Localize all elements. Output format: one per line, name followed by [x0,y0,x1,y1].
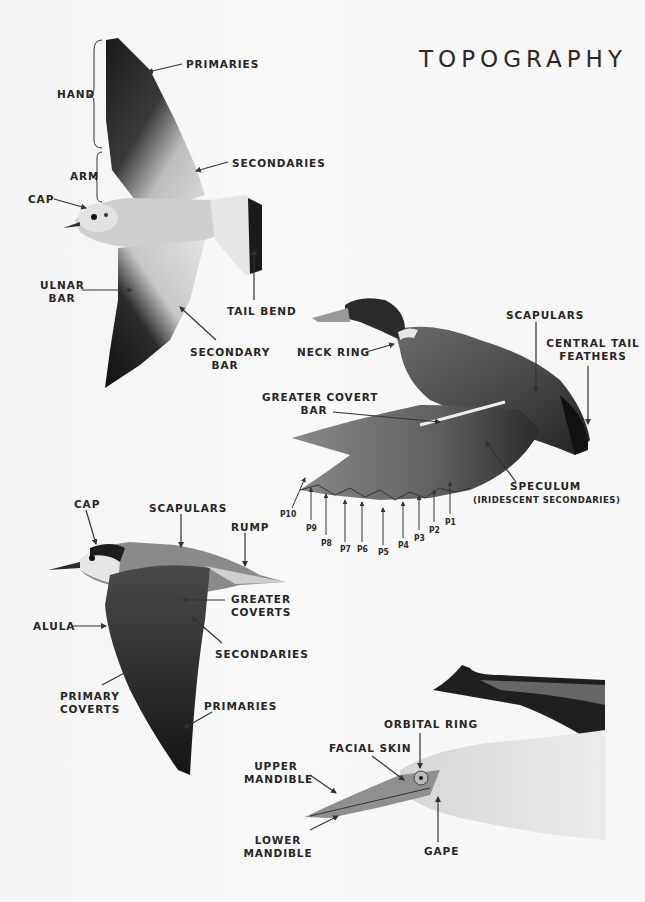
label-primary-coverts-line2: COVERTS [60,703,116,716]
label-lower-mandible-line1: LOWER [242,834,314,847]
label-p4: P4 [398,540,409,550]
label-central-tail-feathers: CENTRAL TAIL FEATHERS [545,337,641,363]
topography-page: TOPOGRAPHY [0,0,645,902]
label-lower-mandible: LOWER MANDIBLE [242,834,314,860]
label-p7: P7 [340,544,351,554]
label-tern-primaries: PRIMARIES [204,700,277,713]
label-speculum: SPECULUM [510,480,581,493]
label-greater-covert-line2: BAR [262,404,366,417]
label-rump: RUMP [231,521,269,534]
label-arm: ARM [70,170,99,183]
label-p8: P8 [321,538,332,548]
label-central-tail-line2: FEATHERS [545,350,641,363]
label-greater-covert-bar: GREATER COVERT BAR [262,391,366,417]
label-tern-secondaries: SECONDARIES [215,648,309,661]
label-p5: P5 [378,547,389,557]
label-tern-scapulars: SCAPULARS [149,502,227,515]
label-secondary-bar-line2: BAR [190,359,260,372]
label-mallard-scapulars: SCAPULARS [506,309,584,322]
bird-illustrations [0,0,645,902]
label-gull-primaries: PRIMARIES [186,58,259,71]
label-gape: GAPE [424,845,459,858]
label-secondary-bar: SECONDARY BAR [190,346,260,372]
label-p9: P9 [306,523,317,533]
label-central-tail-line1: CENTRAL TAIL [545,337,641,350]
label-primary-coverts: PRIMARY COVERTS [60,690,116,716]
label-upper-mandible-line2: MANDIBLE [244,773,308,786]
label-facial-skin: FACIAL SKIN [329,742,411,755]
label-greater-covert-line1: GREATER COVERT [262,391,366,404]
label-upper-mandible-line1: UPPER [244,760,308,773]
label-orbital-ring: ORBITAL RING [384,718,478,731]
label-hand: HAND [57,88,95,101]
label-alula: ALULA [33,620,75,633]
label-secondary-bar-line1: SECONDARY [190,346,260,359]
label-ulnar-bar-line1: ULNAR [40,279,84,292]
label-primary-coverts-line1: PRIMARY [60,690,116,703]
label-greater-coverts-line2: COVERTS [231,606,291,619]
label-greater-coverts: GREATER COVERTS [231,593,291,619]
label-p2: P2 [429,525,440,535]
label-greater-coverts-line1: GREATER [231,593,291,606]
mallard-illustration [292,298,590,545]
label-upper-mandible: UPPER MANDIBLE [244,760,308,786]
label-ulnar-bar: ULNAR BAR [40,279,84,305]
label-p3: P3 [414,533,425,543]
tern-illustration [48,510,285,775]
label-neck-ring: NECK RING [297,346,370,359]
label-p1: P1 [445,517,456,527]
label-p6: P6 [357,544,368,554]
label-ulnar-bar-line2: BAR [40,292,84,305]
label-lower-mandible-line2: MANDIBLE [242,847,314,860]
label-speculum-note: (IRIDESCENT SECONDARIES) [473,494,620,507]
label-gull-secondaries: SECONDARIES [232,157,326,170]
label-tail-bend: TAIL BEND [227,305,297,318]
label-p10: P10 [280,509,296,519]
label-tern-cap: CAP [74,498,100,511]
label-gull-cap: CAP [28,193,54,206]
